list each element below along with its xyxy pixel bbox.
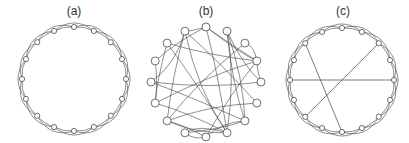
- node: [320, 125, 325, 130]
- node: [108, 113, 113, 118]
- small-world-graph: [286, 24, 398, 136]
- node: [181, 129, 189, 137]
- node: [223, 27, 231, 35]
- node: [202, 133, 210, 141]
- node: [91, 28, 96, 33]
- node: [303, 41, 308, 46]
- node: [359, 125, 364, 130]
- node: [123, 76, 128, 81]
- edge: [26, 31, 54, 59]
- node: [181, 27, 189, 35]
- network-diagram: [0, 0, 409, 143]
- node: [303, 114, 308, 119]
- edge: [167, 121, 227, 133]
- node: [202, 23, 210, 31]
- node: [287, 77, 292, 82]
- node: [52, 124, 57, 129]
- node: [253, 99, 261, 107]
- node: [253, 57, 261, 65]
- edge: [294, 32, 322, 60]
- node: [320, 29, 325, 34]
- node: [391, 77, 396, 82]
- node: [291, 97, 296, 102]
- node: [387, 58, 392, 63]
- node: [52, 28, 57, 33]
- node: [339, 129, 344, 134]
- node: [163, 117, 171, 125]
- node: [387, 97, 392, 102]
- edge: [94, 31, 122, 59]
- node: [23, 57, 28, 62]
- node: [223, 129, 231, 137]
- random-graph: [147, 23, 265, 141]
- node: [119, 57, 124, 62]
- node: [71, 24, 76, 29]
- node: [376, 41, 381, 46]
- node: [35, 40, 40, 45]
- node: [147, 78, 155, 86]
- edge: [185, 31, 227, 133]
- edge: [362, 100, 390, 128]
- shortcut-edge: [305, 43, 342, 132]
- node: [151, 99, 159, 107]
- node: [108, 40, 113, 45]
- regular-lattice-graph: [18, 23, 130, 135]
- node: [91, 124, 96, 129]
- node: [339, 25, 344, 30]
- node: [376, 114, 381, 119]
- node: [163, 39, 171, 47]
- node: [71, 128, 76, 133]
- node: [23, 96, 28, 101]
- node: [241, 39, 249, 47]
- node: [119, 96, 124, 101]
- edge: [26, 99, 54, 127]
- edge: [227, 31, 231, 133]
- node: [35, 113, 40, 118]
- node: [359, 29, 364, 34]
- edge: [151, 82, 261, 86]
- node: [241, 117, 249, 125]
- node: [151, 57, 159, 65]
- node: [257, 78, 265, 86]
- node: [19, 76, 24, 81]
- node: [291, 58, 296, 63]
- edge: [94, 99, 122, 127]
